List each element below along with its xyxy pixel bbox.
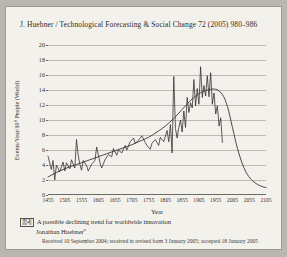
running-head: J. Huebner / Technological Forecasting &… <box>20 20 274 29</box>
x-axis-tick-label: 1755 <box>143 198 154 204</box>
author-line: Jonathan Huebnera <box>36 227 272 237</box>
y-axis-tick-label: 2 <box>42 177 45 183</box>
cjk-marker-badge: 思考 <box>20 218 34 227</box>
x-axis-tick-label: 2105 <box>260 198 271 204</box>
y-axis-tick-label: 8 <box>42 132 45 138</box>
y-axis-tick-label: 12 <box>39 102 45 108</box>
x-axis-tick-label: 1655 <box>109 198 120 204</box>
y-axis-tick-label: 10 <box>39 117 45 123</box>
y-axis-tick-label: 16 <box>39 72 45 78</box>
y-axis-tick-label: 20 <box>39 42 45 48</box>
x-axis-tick-label: 1855 <box>177 198 188 204</box>
page-content: J. Huebner / Technological Forecasting &… <box>6 7 281 249</box>
x-axis-tick-label: 1605 <box>93 198 104 204</box>
y-axis-label-text: Events/Year/10⁹ People (World) <box>14 80 21 159</box>
y-axis-tick-label: 14 <box>39 87 45 93</box>
y-axis-tick-label: 4 <box>42 162 45 168</box>
x-axis-label: Year <box>48 208 266 215</box>
caption-title: A possible declining trend for worldwide… <box>37 218 171 226</box>
x-axis-tick-label: 1905 <box>193 198 204 204</box>
x-axis-tick-label: 2055 <box>244 198 255 204</box>
author-name: Jonathan Huebner <box>36 228 84 235</box>
x-axis-line <box>48 194 266 195</box>
caption-title-line: 思考 A possible declining trend for worldw… <box>20 218 272 227</box>
y-axis-tick-mark <box>46 195 48 196</box>
plot-area: 0246810121416182014551505155516051655170… <box>48 45 266 195</box>
x-axis-tick-label: 1705 <box>126 198 137 204</box>
x-axis-tick-label: 1555 <box>76 198 87 204</box>
received-dates: Received 10 September 2004; received in … <box>42 238 272 245</box>
y-axis-tick-label: 18 <box>39 57 45 63</box>
author-affiliation-mark: a <box>84 227 86 232</box>
x-axis-tick-label: 2005 <box>227 198 238 204</box>
x-axis-tick-label: 1505 <box>59 198 70 204</box>
data-series-line <box>48 67 222 180</box>
y-axis-label: Events/Year/10⁹ People (World) <box>12 45 22 195</box>
y-axis-tick-label: 6 <box>42 147 45 153</box>
chart-series-layer <box>48 45 266 195</box>
x-axis-tick-label: 1805 <box>160 198 171 204</box>
trend-curve <box>48 89 266 188</box>
x-axis-tick-label: 1455 <box>42 198 53 204</box>
figure-innovation-chart: Events/Year/10⁹ People (World) 024681012… <box>14 37 276 215</box>
figure-caption-block: 思考 A possible declining trend for worldw… <box>20 218 272 245</box>
x-axis-tick-label: 1955 <box>210 198 221 204</box>
scanned-paper-page: J. Huebner / Technological Forecasting &… <box>5 6 282 250</box>
